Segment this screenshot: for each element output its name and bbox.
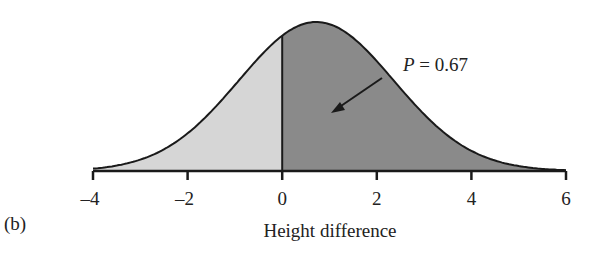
x-tick-label: –2	[174, 188, 194, 209]
x-tick-label: 0	[277, 188, 287, 209]
right-shaded-region	[282, 22, 566, 171]
x-axis-title: Height difference	[263, 220, 396, 241]
x-tick-label: 2	[372, 188, 382, 209]
x-tick-label: –4	[80, 188, 101, 209]
chart: –4–20246 P = 0.67 (b) Height difference	[0, 0, 600, 263]
probability-annotation: P = 0.67	[402, 54, 468, 75]
left-shaded-region	[93, 36, 282, 171]
x-tick-label: 4	[467, 188, 477, 209]
panel-label: (b)	[4, 213, 26, 235]
x-tick-label: 6	[561, 188, 571, 209]
x-axis-ticks: –4–20246	[80, 171, 571, 209]
